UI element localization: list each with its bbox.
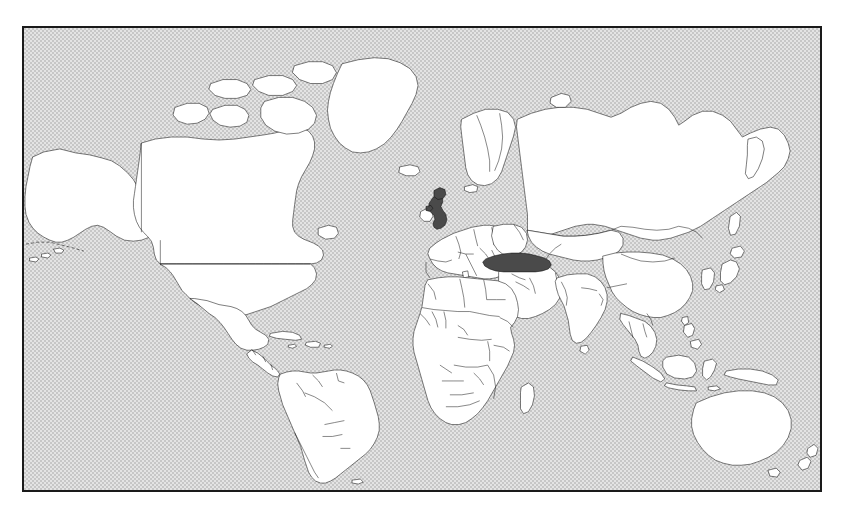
island-victoria bbox=[210, 105, 249, 127]
island-aleutians-3 bbox=[30, 257, 39, 262]
border-portugal-spain bbox=[426, 262, 430, 278]
island-sardinia bbox=[463, 271, 469, 278]
region-east-asia bbox=[603, 252, 693, 317]
landmass-south-america bbox=[278, 370, 379, 483]
island-new-guinea bbox=[724, 369, 778, 385]
island-ellesmere bbox=[293, 62, 337, 84]
country-iceland bbox=[399, 165, 420, 176]
country-sri-lanka bbox=[580, 345, 589, 354]
region-north-america bbox=[25, 62, 338, 377]
island-timor bbox=[709, 386, 721, 391]
island-puerto-rico bbox=[324, 344, 332, 348]
figure-title: World map with highlighted countries bbox=[0, 0, 1, 1]
island-hispaniola bbox=[306, 341, 321, 347]
region-oceania bbox=[692, 391, 818, 477]
island-madagascar bbox=[521, 383, 535, 414]
island-newfoundland bbox=[319, 225, 339, 239]
peninsula-korea bbox=[702, 268, 715, 290]
island-aleutians-1 bbox=[54, 248, 64, 253]
island-philippines-mindanao bbox=[691, 339, 702, 349]
world-map-svg bbox=[24, 28, 820, 490]
country-greenland bbox=[327, 58, 418, 153]
country-new-zealand-south bbox=[798, 457, 811, 470]
island-philippines-luzon bbox=[684, 323, 695, 337]
country-united-states bbox=[160, 264, 316, 317]
island-banks bbox=[173, 103, 209, 124]
figure-page: World map with highlighted countries bbox=[0, 0, 845, 519]
landmass-africa bbox=[413, 277, 518, 425]
island-sulawesi bbox=[703, 359, 717, 380]
island-taiwan bbox=[682, 317, 689, 326]
country-japan-hokkaido bbox=[730, 246, 744, 258]
island-queen-elizabeth-1 bbox=[209, 80, 251, 99]
region-south-america bbox=[278, 370, 379, 484]
country-united-kingdom-scotland-highlight bbox=[434, 188, 446, 200]
country-japan-kyushu bbox=[716, 285, 725, 293]
island-novaya-zemlya bbox=[550, 93, 571, 107]
country-new-zealand-north bbox=[807, 444, 818, 457]
island-tasmania bbox=[768, 468, 780, 477]
island-jamaica bbox=[289, 344, 297, 348]
country-norway-sweden-finland bbox=[461, 109, 516, 185]
island-queen-elizabeth-2 bbox=[253, 76, 297, 96]
island-sakhalin bbox=[728, 212, 740, 235]
region-central-america bbox=[247, 350, 280, 377]
country-japan-honshu bbox=[721, 260, 740, 285]
island-aleutians-2 bbox=[42, 253, 51, 258]
region-asia bbox=[483, 230, 779, 391]
island-sumatra bbox=[631, 357, 665, 382]
region-greenland bbox=[327, 58, 420, 176]
world-map-frame bbox=[22, 26, 822, 492]
island-cuba bbox=[270, 331, 302, 340]
country-canada bbox=[133, 128, 323, 264]
island-borneo bbox=[663, 355, 697, 379]
island-falklands bbox=[352, 479, 363, 484]
region-northern-asia bbox=[517, 93, 791, 240]
country-denmark bbox=[465, 185, 478, 193]
region-africa bbox=[413, 277, 534, 425]
island-java bbox=[665, 383, 697, 391]
region-south-asia bbox=[555, 274, 607, 343]
island-baffin bbox=[261, 97, 317, 134]
country-australia bbox=[692, 391, 792, 465]
